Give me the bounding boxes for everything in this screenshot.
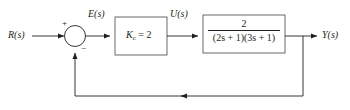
process-transfer-function: 2 (2s + 1)(3s + 1) — [208, 18, 280, 43]
transfer-function-numerator: 2 — [208, 18, 280, 30]
block-diagram: R(s) + − E(s) Kc = 2 U(s) 2 (2s + 1)(3s … — [0, 0, 350, 110]
controller-gain-value: = 2 — [136, 29, 152, 40]
summing-plus-sign: + — [62, 19, 67, 28]
output-signal-label: Y(s) — [322, 30, 338, 40]
summing-minus-sign: − — [81, 44, 86, 53]
input-signal-label: R(s) — [8, 30, 25, 40]
control-signal-label: U(s) — [170, 9, 188, 19]
denominator-factor-1: (2s + 1) — [213, 32, 244, 43]
controller-gain-variable: K — [126, 29, 133, 40]
error-signal-label: E(s) — [88, 9, 105, 19]
transfer-function-denominator: (2s + 1)(3s + 1) — [208, 31, 280, 43]
controller-block-label: Kc = 2 — [126, 30, 151, 42]
denominator-factor-2: (3s + 1) — [244, 32, 275, 43]
